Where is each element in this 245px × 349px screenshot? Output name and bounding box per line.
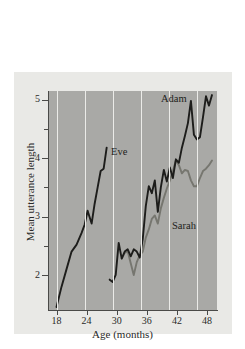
series-label-adam: Adam (161, 93, 187, 104)
y-tick-mark (42, 158, 48, 159)
x-tick-label: 30 (102, 315, 132, 326)
gridline-vertical (113, 91, 114, 310)
gridline-vertical (197, 91, 198, 310)
x-tick-label: 18 (42, 315, 72, 326)
plot-area (49, 91, 217, 310)
x-tick-label: 36 (132, 315, 162, 326)
gridline-vertical (85, 91, 86, 310)
gridline-vertical (57, 91, 58, 310)
y-axis-line (48, 91, 49, 311)
x-axis-title: Age (months) (0, 328, 245, 340)
x-tick-label: 24 (72, 315, 102, 326)
series-label-sarah: Sarah (172, 220, 196, 231)
gridline-vertical (141, 91, 142, 310)
y-tick-mark (42, 100, 48, 101)
y-tick-mark-minor (44, 129, 48, 130)
y-tick-mark-minor (44, 187, 48, 188)
y-axis-title: Mean utterance length (24, 102, 36, 282)
y-tick-mark (42, 275, 48, 276)
x-tick-label: 42 (162, 315, 192, 326)
series-lines (49, 91, 217, 310)
y-tick-mark-minor (44, 246, 48, 247)
x-axis-line (48, 310, 218, 311)
line-series-eve (57, 148, 107, 307)
y-tick-mark (42, 217, 48, 218)
x-tick-label: 48 (192, 315, 222, 326)
series-label-eve: Eve (111, 146, 127, 157)
chart-figure: 2345 182430364248 Mean utterance length … (0, 0, 245, 349)
gridline-vertical (169, 91, 170, 310)
